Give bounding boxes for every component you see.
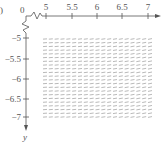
slope-segment xyxy=(101,61,105,62)
slope-segment xyxy=(90,57,94,58)
slope-segment xyxy=(148,117,152,118)
slope-segment xyxy=(90,68,94,69)
slope-segment xyxy=(113,42,117,43)
slope-segment xyxy=(119,76,123,77)
slope-segment xyxy=(90,76,94,77)
slope-segment xyxy=(90,65,94,66)
slope-segment xyxy=(107,91,111,92)
slope-segment xyxy=(113,65,117,66)
slope-segment xyxy=(131,53,135,54)
slope-segment xyxy=(119,57,123,58)
slope-segment xyxy=(107,117,111,118)
y-axis: y −5−5.5−6−6.5−7 xyxy=(5,16,29,142)
slope-segment xyxy=(148,57,152,58)
slope-segment xyxy=(96,54,100,55)
slope-segment xyxy=(131,91,135,92)
slope-segment xyxy=(125,61,129,62)
slope-segment xyxy=(90,54,94,55)
slope-segment xyxy=(125,65,129,66)
slope-segment xyxy=(96,91,100,92)
slope-segment xyxy=(113,57,117,58)
slope-segment xyxy=(101,65,105,66)
slope-segment xyxy=(113,54,117,55)
slope-segment xyxy=(131,117,135,118)
slope-segment xyxy=(90,61,94,62)
slope-segment xyxy=(101,54,105,55)
slope-segment xyxy=(119,117,123,118)
slope-segment xyxy=(113,94,117,95)
slope-segment xyxy=(136,50,140,51)
slope-segment xyxy=(107,98,111,99)
slope-segment xyxy=(136,68,140,69)
y-tick-label: −6.5 xyxy=(5,94,22,104)
slope-segment xyxy=(142,46,146,47)
slope-segment xyxy=(148,42,152,43)
slope-segment xyxy=(119,39,123,40)
slope-segment xyxy=(119,83,123,84)
slope-segment xyxy=(119,65,123,66)
slope-segment xyxy=(148,46,152,47)
slope-segment xyxy=(148,61,152,62)
slope-segment xyxy=(101,91,105,92)
slope-segment xyxy=(136,94,140,95)
slope-segment xyxy=(113,80,117,81)
slope-segment xyxy=(125,106,129,107)
slope-segment xyxy=(107,57,111,58)
y-tick-label: −6 xyxy=(11,74,21,84)
slope-segment xyxy=(136,76,140,77)
slope-segment xyxy=(119,106,123,107)
slope-segment xyxy=(136,105,140,106)
x-tick-label: 6 xyxy=(95,2,100,12)
slope-segment xyxy=(148,53,152,54)
slope-segment xyxy=(119,80,123,81)
slope-segment xyxy=(96,72,100,73)
slope-segment xyxy=(119,68,123,69)
slope-segment xyxy=(107,113,111,114)
slope-segment xyxy=(96,94,100,95)
slope-segment xyxy=(90,39,94,40)
slope-segment xyxy=(101,76,105,77)
slope-segment xyxy=(113,117,117,118)
slope-segment xyxy=(119,109,123,110)
slope-segment xyxy=(131,46,135,47)
slope-segment xyxy=(119,91,123,92)
slope-segment xyxy=(142,117,146,118)
x-axis: 55.566.57 xyxy=(26,2,161,19)
slope-segment xyxy=(107,87,111,88)
slope-segment xyxy=(136,83,140,84)
slope-segment xyxy=(101,50,105,51)
slope-segment xyxy=(101,39,105,40)
slope-segment xyxy=(90,83,94,84)
slope-segment xyxy=(125,46,129,47)
slope-segment xyxy=(131,94,135,95)
x-tick-label: 7 xyxy=(146,2,151,12)
slope-segment xyxy=(131,72,135,73)
slope-segment xyxy=(131,39,135,40)
slope-segment xyxy=(125,94,129,95)
slope-segment xyxy=(131,113,135,114)
slope-segment xyxy=(131,87,135,88)
slope-segment xyxy=(113,106,117,107)
slope-segment xyxy=(90,42,94,43)
slope-segment xyxy=(142,109,146,110)
slope-segment xyxy=(96,68,100,69)
slope-segment xyxy=(119,72,123,73)
slope-segment xyxy=(142,102,146,103)
slope-segment xyxy=(101,72,105,73)
slope-segment xyxy=(131,98,135,99)
slope-segment xyxy=(90,109,94,110)
slope-segment xyxy=(113,46,117,47)
slope-segment xyxy=(107,72,111,73)
slope-segment xyxy=(113,87,117,88)
slope-segment xyxy=(142,50,146,51)
slope-segment xyxy=(142,72,146,73)
slope-segment xyxy=(125,68,129,69)
slope-segment xyxy=(131,79,135,80)
slope-segment xyxy=(148,91,152,92)
slope-segment xyxy=(125,87,129,88)
y-arrow-icon xyxy=(24,125,28,131)
slope-segment xyxy=(142,68,146,69)
slope-segment xyxy=(148,39,152,40)
slope-segment xyxy=(90,106,94,107)
slope-segment xyxy=(148,98,152,99)
